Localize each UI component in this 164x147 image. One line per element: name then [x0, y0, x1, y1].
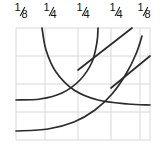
- curve-group: [16, 28, 150, 131]
- curve-svg: [0, 0, 164, 147]
- curve-ray-upper: [78, 28, 132, 70]
- plot-area: [0, 0, 164, 147]
- grid-group: [16, 28, 150, 140]
- curve-arc-outer-left: [42, 28, 150, 105]
- fraction-curve-figure: 1 8 1 4 1 4 1 4: [0, 0, 164, 147]
- curve-ray-lower: [111, 56, 150, 88]
